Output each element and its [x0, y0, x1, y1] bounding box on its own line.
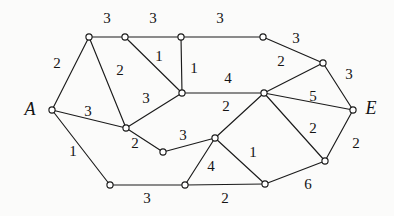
- graph-edge: [185, 184, 265, 185]
- edge-weight-label: 3: [345, 66, 353, 82]
- graph-edge: [265, 161, 325, 184]
- edge-weight-label: 1: [190, 60, 198, 76]
- graph-node: [182, 182, 188, 188]
- weighted-graph-figure: 3333322113342512324132622 AE: [0, 0, 394, 216]
- edge-weight-label: 3: [292, 30, 300, 46]
- graph-node: [179, 90, 185, 96]
- edge-weight-labels-group: 3333322113342512324132622: [53, 10, 360, 206]
- edge-weight-label: 3: [179, 127, 187, 143]
- edge-weight-label: 3: [143, 190, 151, 206]
- edge-weight-label: 2: [221, 190, 229, 206]
- graph-node: [178, 34, 184, 40]
- edge-weight-label: 2: [131, 135, 139, 151]
- edge-weight-label: 5: [309, 88, 317, 104]
- graph-node: [261, 90, 267, 96]
- edge-weight-label: 2: [277, 53, 285, 69]
- graph-node: [260, 34, 266, 40]
- graph-node: [160, 149, 166, 155]
- edge-weight-label: 3: [103, 10, 111, 26]
- graph-node: [49, 107, 55, 113]
- graph-node: [322, 158, 328, 164]
- graph-edge: [126, 93, 182, 128]
- edge-weight-label: 2: [352, 135, 360, 151]
- graph-node: [123, 125, 129, 131]
- edge-weight-label: 2: [116, 62, 124, 78]
- edge-weight-label: 2: [222, 98, 230, 114]
- graph-edge: [325, 110, 353, 161]
- graph-node: [262, 181, 268, 187]
- graph-node: [107, 182, 113, 188]
- edge-weight-label: 3: [149, 10, 157, 26]
- terminal-label-a: A: [24, 99, 37, 119]
- edge-weight-label: 2: [309, 120, 317, 136]
- edge-weight-label: 2: [53, 55, 61, 71]
- edge-weight-label: 1: [155, 48, 163, 64]
- graph-edge: [215, 138, 265, 184]
- graph-node: [350, 107, 356, 113]
- terminal-label-e: E: [365, 98, 377, 118]
- edge-weight-label: 1: [249, 144, 257, 160]
- graph-edge: [125, 37, 182, 93]
- graph-node: [212, 135, 218, 141]
- graph-edge: [181, 37, 182, 93]
- graph-edge: [52, 37, 89, 110]
- edge-weight-label: 4: [207, 158, 215, 174]
- graph-node: [86, 34, 92, 40]
- edge-weight-label: 3: [84, 103, 92, 119]
- graph-node: [122, 34, 128, 40]
- edge-weight-label: 3: [216, 10, 224, 26]
- edge-weight-label: 4: [224, 70, 232, 86]
- edges-group: [52, 37, 353, 185]
- graph-canvas: 3333322113342512324132622 AE: [0, 0, 394, 216]
- graph-edge: [89, 37, 126, 128]
- graph-edge: [52, 110, 110, 185]
- edge-weight-label: 1: [69, 143, 77, 159]
- edge-weight-label: 3: [142, 90, 150, 106]
- graph-node: [320, 60, 326, 66]
- edge-weight-label: 6: [304, 176, 312, 192]
